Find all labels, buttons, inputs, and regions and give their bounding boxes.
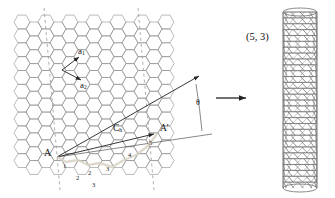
lattice-hexagon bbox=[14, 57, 30, 71]
lattice-hexagon bbox=[134, 71, 150, 85]
lattice-hexagon bbox=[110, 15, 126, 29]
lattice-hexagon bbox=[86, 29, 102, 43]
chiral-walk-path bbox=[57, 134, 157, 167]
lattice-hexagon bbox=[62, 84, 78, 98]
lattice-hexagon bbox=[146, 147, 162, 161]
lattice-hexagon bbox=[158, 71, 174, 85]
lattice-hexagon bbox=[134, 15, 150, 29]
lattice-hexagon bbox=[134, 57, 150, 71]
lattice-hexagon bbox=[26, 36, 42, 50]
lattice-hexagon bbox=[98, 36, 114, 50]
lattice-hexagon bbox=[158, 43, 174, 57]
lattice-hexagon bbox=[62, 98, 78, 112]
lattice-hexagon bbox=[38, 57, 54, 71]
lattice-hexagon bbox=[86, 84, 102, 98]
lattice-hexagon bbox=[38, 71, 54, 85]
lattice-hexagon bbox=[122, 161, 138, 175]
a1-step-number: 5 bbox=[149, 140, 152, 147]
lattice-hexagon bbox=[50, 105, 66, 119]
lattice-hexagon bbox=[86, 71, 102, 85]
theta-arc bbox=[196, 84, 202, 131]
label-a2: a2 bbox=[80, 81, 87, 91]
lattice-hexagon bbox=[98, 105, 114, 119]
lattice-hexagon bbox=[62, 126, 78, 140]
lattice-hexagon bbox=[146, 77, 162, 91]
basis-vector-a2 bbox=[62, 70, 81, 80]
lattice-hexagon bbox=[98, 77, 114, 91]
lattice-hexagon bbox=[26, 105, 42, 119]
lattice-hexagon bbox=[74, 91, 90, 105]
lattice-hexagon bbox=[98, 50, 114, 64]
lattice-hexagon bbox=[14, 43, 30, 57]
lattice-hexagon bbox=[74, 22, 90, 36]
lattice-hexagon bbox=[146, 22, 162, 36]
lattice-hexagon bbox=[146, 105, 162, 119]
lattice-hexagon bbox=[26, 119, 42, 133]
lattice-hexagon bbox=[134, 112, 150, 126]
lattice-hexagon bbox=[26, 133, 42, 147]
lattice-hexagon bbox=[14, 84, 30, 98]
lattice-hexagon bbox=[74, 64, 90, 78]
lattice-hexagon bbox=[158, 98, 174, 112]
lattice-hexagon bbox=[86, 43, 102, 57]
lattice-hexagon bbox=[146, 50, 162, 64]
lattice-hexagon bbox=[110, 43, 126, 57]
lattice-hexagon bbox=[50, 91, 66, 105]
lattice-hexagon bbox=[14, 126, 30, 140]
lattice-hexagon bbox=[14, 140, 30, 154]
lattice-hexagon bbox=[14, 71, 30, 85]
lattice-hexagon bbox=[14, 112, 30, 126]
lattice-hexagon bbox=[158, 57, 174, 71]
lattice-hexagon bbox=[26, 147, 42, 161]
lattice-hexagon bbox=[26, 161, 42, 175]
lattice-hexagon bbox=[38, 29, 54, 43]
dashed-guide-line bbox=[138, 8, 154, 190]
lattice-hexagon bbox=[50, 22, 66, 36]
label-a1: a1 bbox=[78, 47, 85, 57]
lattice-hexagon bbox=[110, 57, 126, 71]
lattice-hexagon bbox=[50, 36, 66, 50]
lattice-hexagon bbox=[158, 15, 174, 29]
label-theta-angle: θ bbox=[196, 99, 200, 107]
lattice-hexagon bbox=[50, 77, 66, 91]
lattice-hexagon bbox=[86, 15, 102, 29]
lattice-hexagon bbox=[38, 43, 54, 57]
dashed-guide-line bbox=[44, 8, 60, 190]
lattice-hexagon bbox=[62, 29, 78, 43]
lattice-hexagon bbox=[122, 36, 138, 50]
lattice-hexagon bbox=[98, 133, 114, 147]
lattice-hexagon bbox=[26, 91, 42, 105]
chiral-axis-reference-line bbox=[57, 134, 212, 157]
lattice-hexagon bbox=[86, 98, 102, 112]
a1-step-number: 1 bbox=[63, 163, 66, 170]
a2-step-number: 2 bbox=[76, 175, 79, 182]
lattice-hexagon bbox=[26, 50, 42, 64]
lattice-hexagon bbox=[98, 91, 114, 105]
lattice-hexagon bbox=[38, 126, 54, 140]
lattice-hexagon bbox=[134, 84, 150, 98]
lattice-hexagon bbox=[122, 119, 138, 133]
lattice-hexagon bbox=[122, 22, 138, 36]
lattice-hexagon bbox=[14, 98, 30, 112]
lattice-hexagon bbox=[134, 29, 150, 43]
lattice-hexagon bbox=[110, 140, 126, 154]
lattice-hexagon bbox=[50, 133, 66, 147]
lattice-hexagon bbox=[26, 64, 42, 78]
lattice-hexagon bbox=[110, 29, 126, 43]
lattice-hexagon bbox=[50, 50, 66, 64]
lattice-hexagon bbox=[86, 57, 102, 71]
lattice-hexagon bbox=[122, 91, 138, 105]
diagram-canvas bbox=[0, 0, 335, 198]
lattice-hexagon bbox=[110, 98, 126, 112]
lattice-hexagon bbox=[14, 15, 30, 29]
lattice-hexagon bbox=[26, 77, 42, 91]
lattice-hexagon bbox=[14, 154, 30, 168]
lattice-hexagon bbox=[98, 64, 114, 78]
lattice-hexagon bbox=[62, 15, 78, 29]
a1-step-number: 3 bbox=[106, 166, 109, 173]
label-endpoint-a-prime: A' bbox=[160, 124, 169, 134]
a2-step-number: 3 bbox=[92, 182, 95, 189]
a1-step-number: 2 bbox=[88, 170, 91, 177]
label-origin-a: A bbox=[44, 148, 51, 158]
a1-step-number: 4 bbox=[128, 152, 131, 159]
